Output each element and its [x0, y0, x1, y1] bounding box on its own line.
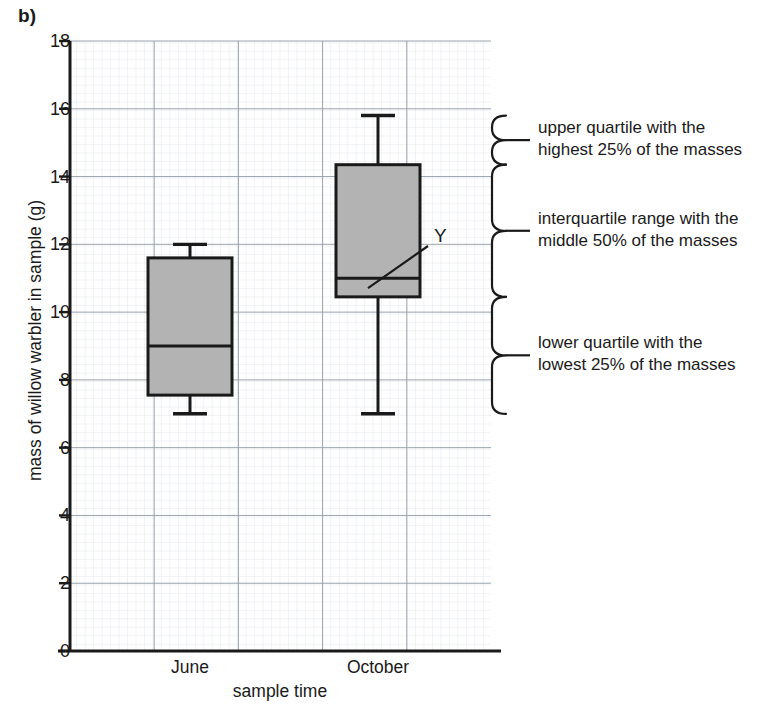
annotation-line-2: middle 50% of the masses	[538, 230, 738, 252]
box-plot-june	[148, 244, 232, 413]
chart-root: b) mass of willow warbler in sample (g) …	[0, 0, 761, 715]
annotation-line-2: highest 25% of the masses	[538, 139, 742, 161]
brace-lower-quartile	[492, 297, 506, 414]
annotation-upper-quartile: upper quartile with thehighest 25% of th…	[538, 117, 742, 161]
box-rect	[148, 258, 232, 395]
annotation-line-1: interquartile range with the	[538, 208, 738, 230]
brace-interquartile-range	[492, 165, 506, 297]
annotation-line-1: upper quartile with the	[538, 117, 742, 139]
plot-background	[70, 41, 491, 651]
annotation-interquartile-range: interquartile range with themiddle 50% o…	[538, 208, 738, 252]
y-pointer-label: Y	[434, 225, 447, 246]
annotation-line-2: lowest 25% of the masses	[538, 354, 735, 376]
annotation-lower-quartile: lower quartile with thelowest 25% of the…	[538, 332, 735, 376]
annotation-line-1: lower quartile with the	[538, 332, 735, 354]
brace-upper-quartile	[492, 116, 506, 165]
